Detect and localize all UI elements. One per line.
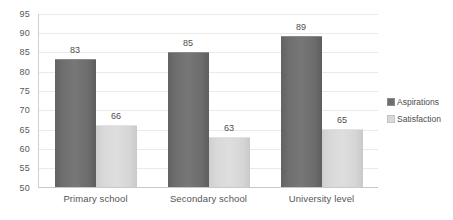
bar-value-label: 63: [224, 124, 234, 133]
bar-group: 85 63: [152, 14, 265, 188]
bar-groups: 83 66 85 63: [39, 14, 378, 188]
y-tick-label: 65: [0, 126, 30, 135]
bar-value-label: 89: [296, 23, 306, 32]
x-category-label: Primary school: [39, 192, 152, 212]
bar-aspirations[interactable]: 89: [281, 36, 322, 188]
bar-value-label: 85: [183, 39, 193, 48]
y-tick-label: 95: [0, 10, 30, 19]
y-tick-label: 75: [0, 87, 30, 96]
bar-satisfaction[interactable]: 65: [322, 129, 363, 188]
bar-slot: 89: [281, 14, 322, 188]
legend-item-aspirations[interactable]: Aspirations: [387, 95, 451, 109]
bar-slot: 85: [168, 14, 209, 188]
y-tick-label: 55: [0, 164, 30, 173]
plot-area: 83 66 85 63: [38, 14, 378, 188]
x-axis: Primary school Secondary school Universi…: [39, 192, 378, 212]
y-tick-label: 60: [0, 145, 30, 154]
y-tick-label: 70: [0, 106, 30, 115]
bar-group: 83 66: [39, 14, 152, 188]
y-tick-label: 80: [0, 68, 30, 77]
legend-label: Aspirations: [397, 98, 439, 107]
bar-slot: 65: [322, 14, 363, 188]
bar-aspirations[interactable]: 85: [168, 52, 209, 188]
x-category-label: Secondary school: [152, 192, 265, 212]
bar-slot: 66: [96, 14, 137, 188]
chart-legend: Aspirations Satisfaction: [387, 95, 451, 129]
bar-satisfaction[interactable]: 63: [209, 137, 250, 188]
y-axis: 95 90 85 80 75 70 65 60 55 50: [0, 0, 36, 190]
y-tick-label: 85: [0, 48, 30, 57]
bar-value-label: 83: [70, 46, 80, 55]
x-category-label: University level: [265, 192, 378, 212]
y-tick-label: 50: [0, 184, 30, 193]
legend-label: Satisfaction: [397, 115, 441, 124]
bar-satisfaction[interactable]: 66: [96, 125, 137, 188]
legend-swatch-icon: [387, 98, 395, 106]
y-tick-label: 90: [0, 29, 30, 38]
legend-item-satisfaction[interactable]: Satisfaction: [387, 112, 451, 126]
bar-chart: 95 90 85 80 75 70 65 60 55 50 83: [0, 0, 453, 220]
x-axis-line: [38, 187, 378, 188]
bar-value-label: 66: [111, 112, 121, 121]
bar-slot: 83: [55, 14, 96, 188]
bar-value-label: 65: [337, 116, 347, 125]
bar-slot: 63: [209, 14, 250, 188]
legend-swatch-icon: [387, 115, 395, 123]
bar-group: 89 65: [265, 14, 378, 188]
bar-aspirations[interactable]: 83: [55, 59, 96, 188]
